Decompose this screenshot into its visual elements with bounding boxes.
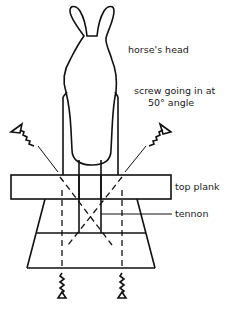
tennon — [79, 160, 101, 233]
label-top-plank: top plank — [175, 181, 220, 192]
bottom-screw-right-icon — [118, 273, 126, 298]
label-screw-line1: screw going in at — [134, 85, 216, 96]
bottom-screw-left-icon — [58, 273, 66, 298]
label-horses-head: horse's head — [128, 44, 189, 55]
top-plank — [11, 175, 171, 199]
label-tennon: tennon — [175, 208, 208, 219]
diagram-canvas: horse's head screw going in at 50° angle… — [0, 0, 228, 311]
base-block — [27, 199, 155, 268]
angled-screw-right-icon — [149, 124, 171, 146]
horses-head — [64, 7, 117, 166]
label-screw-line2: 50° angle — [148, 97, 194, 108]
angled-screw-left-icon — [11, 124, 34, 146]
